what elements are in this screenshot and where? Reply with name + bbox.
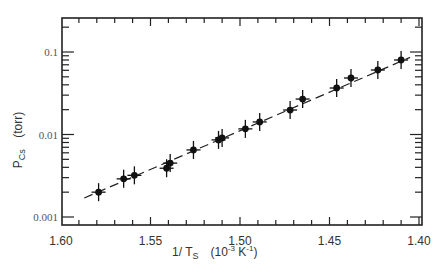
x-label-units2: K — [235, 245, 246, 259]
data-point — [117, 170, 131, 188]
plot-frame — [62, 18, 422, 225]
data-point — [127, 166, 141, 184]
y-label-sub: Cs — [17, 149, 27, 160]
y-axis-label: PCs (torr) — [11, 112, 27, 168]
x-label-main: 1/ T — [172, 245, 193, 259]
data-point — [371, 61, 385, 79]
y-tick-label: 0.01 — [39, 129, 58, 141]
x-label-units: (10 — [210, 245, 228, 259]
y-label-main: P — [11, 160, 25, 168]
data-point — [330, 79, 344, 97]
data-point — [92, 183, 106, 201]
x-label-sub: S — [192, 251, 198, 261]
svg-text:1/ TS(10-3 K-1): 1/ TS(10-3 K-1) — [172, 244, 257, 261]
data-point — [394, 51, 408, 69]
x-tick-label: 1.45 — [318, 234, 342, 248]
x-axis-ticks: 1.601.551.501.451.40 — [49, 18, 431, 248]
y-label-units: (torr) — [11, 112, 25, 138]
data-point — [186, 141, 200, 159]
y-axis-ticks: 0.0010.010.1 — [33, 27, 422, 223]
data-point — [253, 113, 267, 131]
data-point — [215, 129, 229, 147]
x-axis-label: 1/ TS(10-3 K-1) — [172, 244, 257, 261]
chart: 1.601.551.501.451.40 0.0010.010.1 PCs (t… — [0, 0, 440, 276]
x-label-close: ) — [253, 245, 257, 259]
y-tick-label: 0.1 — [44, 46, 58, 58]
data-point — [283, 101, 297, 119]
data-point — [238, 120, 252, 138]
x-tick-label: 1.60 — [49, 234, 73, 248]
data-point — [344, 69, 358, 87]
x-tick-label: 1.55 — [139, 234, 163, 248]
y-tick-label: 0.001 — [33, 211, 58, 223]
data-points — [92, 51, 409, 201]
x-tick-label: 1.40 — [407, 234, 431, 248]
svg-text:PCs (torr): PCs (torr) — [11, 112, 27, 168]
